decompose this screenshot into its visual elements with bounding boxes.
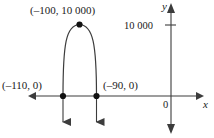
point-root-left: [60, 93, 66, 99]
y-axis-up-arrow-icon: [167, 3, 175, 13]
vertex-point-label: (–100, 10 000): [30, 5, 95, 16]
y-axis-down-arrow-icon: [167, 124, 175, 134]
origin-label: 0: [163, 99, 168, 110]
x-axis-label: x: [203, 99, 208, 110]
parabola-figure: (–100, 10 000) (–110, 0) (–90, 0) 10 000…: [0, 0, 214, 138]
left-root-point-label: (–110, 0): [2, 80, 42, 91]
parabola-curve: [63, 25, 97, 97]
point-root-right: [93, 93, 99, 99]
y-axis-label: y: [162, 1, 167, 12]
point-vertex: [76, 21, 82, 27]
graph-canvas: [0, 0, 214, 138]
y-axis-tick-label: 10 000: [124, 20, 153, 31]
right-root-point-label: (–90, 0): [103, 80, 138, 91]
